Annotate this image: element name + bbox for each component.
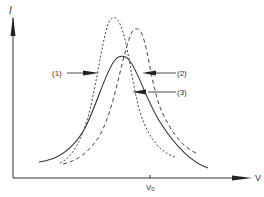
arrow-left-icon xyxy=(132,90,146,95)
curve-3-label: (3) xyxy=(177,88,187,97)
y-axis: I xyxy=(9,5,16,178)
arrow-left-icon xyxy=(142,71,156,76)
x-axis-arrow-icon xyxy=(232,176,252,181)
curve-1-short-dashed xyxy=(60,18,175,163)
x-axis: V V0 xyxy=(13,173,261,192)
curve-2-callout: (2) xyxy=(142,69,187,78)
resonance-diagram: I V V0 (1) (2) (3) xyxy=(0,0,264,197)
x-axis-label: V xyxy=(255,173,261,183)
curve-3-callout: (3) xyxy=(132,88,187,97)
v0-tick-label: V0 xyxy=(146,183,155,192)
curve-1-callout: (1) xyxy=(52,69,99,78)
curve-2-label: (2) xyxy=(177,69,187,78)
y-axis-label: I xyxy=(9,5,12,16)
arrow-right-icon xyxy=(83,71,99,76)
curve-1-label: (1) xyxy=(52,69,62,78)
y-axis-arrow-icon xyxy=(11,16,16,36)
